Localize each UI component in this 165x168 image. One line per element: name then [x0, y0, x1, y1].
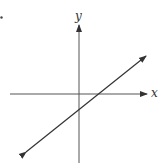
coordinate-plane-diagram: x y: [0, 0, 165, 168]
plotted-line: [26, 56, 146, 152]
x-axis-label: x: [151, 86, 158, 100]
bullet-dot: [0, 16, 2, 18]
y-axis-label: y: [74, 9, 82, 23]
